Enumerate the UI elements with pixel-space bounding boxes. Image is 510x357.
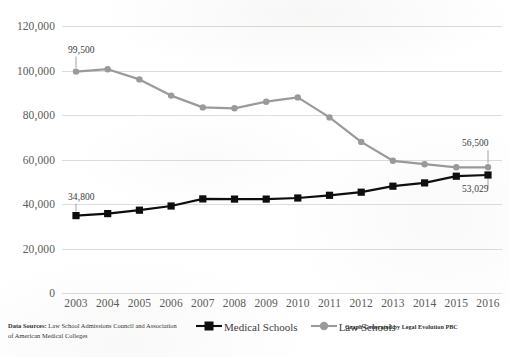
x-axis-tick-label: 2006 bbox=[159, 297, 182, 309]
data-point-marker bbox=[358, 139, 364, 145]
legend-marker-circle-icon bbox=[311, 320, 337, 334]
y-axis-tick-label: 100,000 bbox=[17, 65, 55, 77]
data-label: 56,500 bbox=[462, 138, 489, 148]
data-point-marker bbox=[168, 202, 175, 209]
data-point-marker bbox=[105, 66, 111, 72]
data-point-marker bbox=[263, 196, 270, 203]
chart-container: 020,00040,00060,00080,000100,000120,0002… bbox=[0, 0, 510, 357]
data-point-marker bbox=[295, 94, 301, 100]
series-layer bbox=[62, 26, 502, 293]
data-point-marker bbox=[421, 179, 428, 186]
x-axis-tick-label: 2016 bbox=[476, 297, 499, 309]
x-axis-tick-label: 2008 bbox=[223, 297, 246, 309]
data-label: 34,800 bbox=[68, 192, 95, 202]
legend-item-medical-schools[interactable]: Medical Schools bbox=[196, 320, 298, 334]
y-axis-tick-label: 40,000 bbox=[23, 198, 55, 210]
x-axis-tick-label: 2010 bbox=[286, 297, 309, 309]
data-sources: Data Sources: Law School Admissions Coun… bbox=[8, 321, 183, 341]
x-axis-tick-label: 2007 bbox=[191, 297, 214, 309]
data-point-marker bbox=[136, 76, 142, 82]
data-point-marker bbox=[421, 161, 427, 167]
data-point-marker bbox=[453, 164, 459, 170]
y-axis-tick-label: 120,000 bbox=[17, 20, 55, 32]
data-sources-label: Data Sources: bbox=[8, 322, 47, 329]
data-point-marker bbox=[453, 173, 460, 180]
data-point-marker bbox=[263, 99, 269, 105]
y-axis-tick-label: 80,000 bbox=[23, 109, 55, 121]
data-point-marker bbox=[136, 207, 143, 214]
data-point-marker bbox=[485, 164, 491, 170]
data-point-marker bbox=[73, 68, 79, 74]
series-line-law-schools bbox=[76, 69, 488, 167]
data-point-marker bbox=[200, 104, 206, 110]
x-axis-tick-label: 2011 bbox=[318, 297, 341, 309]
graph-credit: Graph Generated by Legal Evolution PBC bbox=[345, 324, 458, 330]
data-point-marker bbox=[326, 192, 333, 199]
data-point-marker bbox=[484, 171, 491, 178]
y-axis-tick-label: 60,000 bbox=[23, 154, 55, 166]
x-axis-tick-label: 2013 bbox=[381, 297, 404, 309]
data-point-marker bbox=[72, 212, 79, 219]
x-axis-tick-label: 2015 bbox=[445, 297, 468, 309]
data-point-marker bbox=[294, 194, 301, 201]
data-point-marker bbox=[168, 92, 174, 98]
x-axis-tick-label: 2003 bbox=[64, 297, 87, 309]
plot-area: 020,00040,00060,00080,000100,000120,0002… bbox=[62, 26, 502, 293]
data-point-marker bbox=[231, 196, 238, 203]
legend-label-medical-schools: Medical Schools bbox=[224, 321, 298, 333]
data-point-marker bbox=[199, 195, 206, 202]
data-point-marker bbox=[231, 105, 237, 111]
x-axis-tick-label: 2009 bbox=[254, 297, 277, 309]
data-label: 53,029 bbox=[462, 184, 489, 194]
y-axis-tick-label: 20,000 bbox=[23, 243, 55, 255]
data-point-marker bbox=[358, 189, 365, 196]
x-axis-tick-label: 2014 bbox=[413, 297, 436, 309]
legend-marker-square-icon bbox=[196, 320, 222, 334]
y-axis-tick-label: 0 bbox=[49, 287, 55, 299]
data-point-marker bbox=[389, 183, 396, 190]
data-point-marker bbox=[104, 210, 111, 217]
x-axis-tick-label: 2012 bbox=[349, 297, 372, 309]
gridline bbox=[62, 293, 502, 294]
x-axis-tick-label: 2005 bbox=[128, 297, 151, 309]
data-point-marker bbox=[390, 158, 396, 164]
x-axis-tick-label: 2004 bbox=[96, 297, 119, 309]
data-point-marker bbox=[326, 114, 332, 120]
chart-footer: Data Sources: Law School Admissions Coun… bbox=[0, 318, 510, 357]
data-label: 99,500 bbox=[68, 45, 95, 55]
